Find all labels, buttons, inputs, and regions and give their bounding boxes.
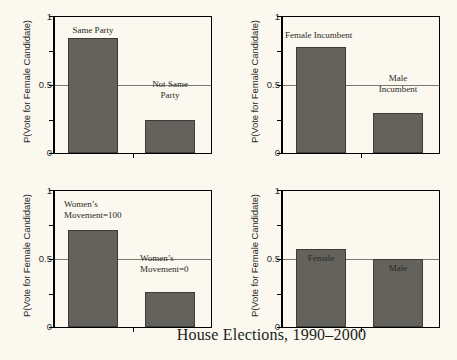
bar	[145, 120, 195, 153]
y-axis-tick	[277, 294, 281, 295]
y-axis-tick	[49, 51, 53, 52]
y-axis-tick	[277, 51, 281, 52]
figure-title-text: House Elections, 1990–2000	[91, 326, 367, 344]
panel-womens-movement: P(Vote for Female Candidate) 1 0.5 0 Wom…	[0, 176, 228, 348]
bar-label: Female	[287, 253, 355, 264]
y-axis-tick	[277, 153, 281, 154]
y-axis-tick	[277, 225, 281, 226]
bar-label: Not Same Party	[136, 79, 204, 100]
y-axis-tick	[277, 190, 281, 191]
bar	[68, 38, 118, 153]
plot-area: Female Incumbent Male Incumbent	[282, 16, 440, 154]
bar-label: Male Incumbent	[364, 73, 432, 94]
bar-label: Women’s Movement=0	[140, 253, 220, 274]
y-axis-tick	[49, 16, 53, 17]
bar	[145, 292, 195, 327]
y-axis-tick	[49, 85, 53, 86]
plot-area: Same Party Not Same Party	[54, 16, 212, 154]
bar-label: Women’s Movement=100	[64, 199, 150, 220]
plot-area: Women’s Movement=100 Women’s Movement=0	[54, 190, 212, 328]
panel-incumbency: P(Vote for Female Candidate) 1 0.5 0 Fem…	[228, 2, 456, 174]
figure-bar-chart-grid: P(Vote for Female Candidate) 1 0.5 0 Sam…	[0, 0, 457, 360]
y-axis-tick	[49, 153, 53, 154]
y-axis-tick	[277, 120, 281, 121]
y-axis-tick	[49, 225, 53, 226]
y-axis-tick	[277, 259, 281, 260]
bar-label: Female Incumbent	[285, 30, 395, 41]
figure-title: House Elections, 1990–2000	[0, 326, 457, 344]
y-axis-tick-labels: 1 0.5 0	[254, 2, 280, 142]
y-axis-tick	[49, 294, 53, 295]
bar	[373, 113, 423, 153]
bar-label: Male	[364, 263, 432, 274]
y-axis-tick	[49, 259, 53, 260]
plot-area: Female Male	[282, 190, 440, 328]
x-axis-tick	[133, 153, 134, 158]
y-axis-tick	[277, 16, 281, 17]
y-axis-tick	[277, 85, 281, 86]
panel-same-party: P(Vote for Female Candidate) 1 0.5 0 Sam…	[0, 2, 228, 174]
panel-candidate-gender: P(Vote for Female Candidate) 1 0.5 0 Fem…	[228, 176, 456, 348]
y-axis-tick	[49, 120, 53, 121]
y-axis-tick	[49, 190, 53, 191]
bar-label: Same Party	[59, 25, 127, 36]
x-axis-tick	[361, 153, 362, 158]
bar	[296, 47, 346, 153]
y-axis-tick-labels: 1 0.5 0	[254, 176, 280, 316]
y-axis-tick-labels: 1 0.5 0	[26, 176, 52, 316]
y-axis-tick-labels: 1 0.5 0	[26, 2, 52, 142]
bar	[68, 230, 118, 327]
